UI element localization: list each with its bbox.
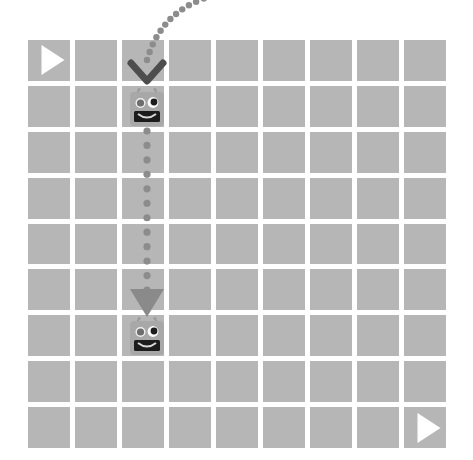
grid-cell-r5c2[interactable]: [75, 224, 117, 265]
grid-cell-r9c6[interactable]: [263, 407, 305, 448]
grid-cell-r3c5[interactable]: [216, 132, 258, 173]
grid-cell-r2c9[interactable]: [404, 86, 446, 127]
grid-cell-r2c8[interactable]: [357, 86, 399, 127]
robot-pupil-left: [137, 328, 144, 335]
grid-cell-r9c8[interactable]: [357, 407, 399, 448]
grid-cell-r5c5[interactable]: [216, 224, 258, 265]
grid-cell-r7c5[interactable]: [216, 315, 258, 356]
grid-cell-r6c7[interactable]: [310, 269, 352, 310]
grid-cell-r4c3[interactable]: [122, 178, 164, 219]
grid-cell-r6c6[interactable]: [263, 269, 305, 310]
grid-cell-r5c6[interactable]: [263, 224, 305, 265]
grid-cell-r1c3[interactable]: [122, 40, 164, 81]
robot-pupil-right: [151, 328, 158, 335]
grid-cell-r7c8[interactable]: [357, 315, 399, 356]
grid-cell-r8c3[interactable]: [122, 361, 164, 402]
grid-cell-r4c1[interactable]: [28, 178, 70, 219]
path-dot: [201, 0, 207, 2]
grid-cell-r5c7[interactable]: [310, 224, 352, 265]
grid-cell-r6c1[interactable]: [28, 269, 70, 310]
grid-cell-r1c4[interactable]: [169, 40, 211, 81]
grid-cell-r1c6[interactable]: [263, 40, 305, 81]
play-triangle-icon[interactable]: [42, 45, 65, 75]
grid-cell-r4c9[interactable]: [404, 178, 446, 219]
grid-cell-r2c6[interactable]: [263, 86, 305, 127]
grid-cell-r3c1[interactable]: [28, 132, 70, 173]
grid-cell-r2c5[interactable]: [216, 86, 258, 127]
grid-cell-r1c7[interactable]: [310, 40, 352, 81]
grid-cell-r4c8[interactable]: [357, 178, 399, 219]
grid-cell-r3c9[interactable]: [404, 132, 446, 173]
robot-top[interactable]: [127, 88, 167, 128]
robot-bottom[interactable]: [127, 317, 167, 357]
grid-cell-r5c8[interactable]: [357, 224, 399, 265]
grid-cell-r4c4[interactable]: [169, 178, 211, 219]
grid-cell-r3c4[interactable]: [169, 132, 211, 173]
grid-cell-r6c8[interactable]: [357, 269, 399, 310]
grid-cell-r6c4[interactable]: [169, 269, 211, 310]
grid-cell-r2c4[interactable]: [169, 86, 211, 127]
grid-cell-r4c2[interactable]: [75, 178, 117, 219]
grid-cell-r3c6[interactable]: [263, 132, 305, 173]
grid-cell-r1c2[interactable]: [75, 40, 117, 81]
grid-cell-r7c7[interactable]: [310, 315, 352, 356]
grid-cell-r8c7[interactable]: [310, 361, 352, 402]
grid-cell-r4c6[interactable]: [263, 178, 305, 219]
grid-cell-r6c5[interactable]: [216, 269, 258, 310]
grid-cell-r6c2[interactable]: [75, 269, 117, 310]
grid-cell-r8c4[interactable]: [169, 361, 211, 402]
grid-cell-r9c4[interactable]: [169, 407, 211, 448]
grid-cell-r2c1[interactable]: [28, 86, 70, 127]
robot-pupil-right: [151, 99, 158, 106]
grid-cell-r9c5[interactable]: [216, 407, 258, 448]
grid-cell-r3c3[interactable]: [122, 132, 164, 173]
path-dot: [173, 11, 179, 17]
grid-cell-r9c2[interactable]: [75, 407, 117, 448]
play-triangle-icon[interactable]: [418, 413, 441, 443]
grid-cell-r4c7[interactable]: [310, 178, 352, 219]
robot-pupil-left: [137, 99, 144, 106]
grid-cell-r4c5[interactable]: [216, 178, 258, 219]
path-dot: [193, 0, 199, 5]
grid-cell-r8c6[interactable]: [263, 361, 305, 402]
grid-cell-r6c3[interactable]: [122, 269, 164, 310]
grid-cell-r8c5[interactable]: [216, 361, 258, 402]
grid-cell-r8c8[interactable]: [357, 361, 399, 402]
grid-cell-r9c3[interactable]: [122, 407, 164, 448]
grid-cell-r3c2[interactable]: [75, 132, 117, 173]
grid-cell-r5c1[interactable]: [28, 224, 70, 265]
puzzle-screen: [0, 0, 473, 460]
grid-cell-r9c9[interactable]: [404, 407, 446, 448]
grid-cell-r7c1[interactable]: [28, 315, 70, 356]
grid-cell-r8c2[interactable]: [75, 361, 117, 402]
grid-cell-r7c9[interactable]: [404, 315, 446, 356]
path-dot: [186, 2, 192, 8]
grid-cell-r2c2[interactable]: [75, 86, 117, 127]
grid-cell-r7c6[interactable]: [263, 315, 305, 356]
grid-cell-r3c7[interactable]: [310, 132, 352, 173]
grid-cell-r3c8[interactable]: [357, 132, 399, 173]
grid-cell-r8c9[interactable]: [404, 361, 446, 402]
grid-cell-r7c4[interactable]: [169, 315, 211, 356]
grid-cell-r1c5[interactable]: [216, 40, 258, 81]
path-dot: [167, 16, 173, 22]
grid-board[interactable]: [28, 40, 446, 448]
grid-cell-r5c4[interactable]: [169, 224, 211, 265]
path-dot: [179, 6, 185, 12]
grid-cell-r8c1[interactable]: [28, 361, 70, 402]
grid-cell-r5c9[interactable]: [404, 224, 446, 265]
path-dot: [162, 21, 168, 27]
grid-cell-r2c7[interactable]: [310, 86, 352, 127]
grid-cell-r1c1[interactable]: [28, 40, 70, 81]
grid-cell-r9c7[interactable]: [310, 407, 352, 448]
path-dot: [157, 28, 163, 34]
grid-cell-r6c9[interactable]: [404, 269, 446, 310]
grid-cell-r9c1[interactable]: [28, 407, 70, 448]
grid-cell-r7c2[interactable]: [75, 315, 117, 356]
grid-cell-r1c8[interactable]: [357, 40, 399, 81]
grid-cell-r5c3[interactable]: [122, 224, 164, 265]
grid-cell-r1c9[interactable]: [404, 40, 446, 81]
